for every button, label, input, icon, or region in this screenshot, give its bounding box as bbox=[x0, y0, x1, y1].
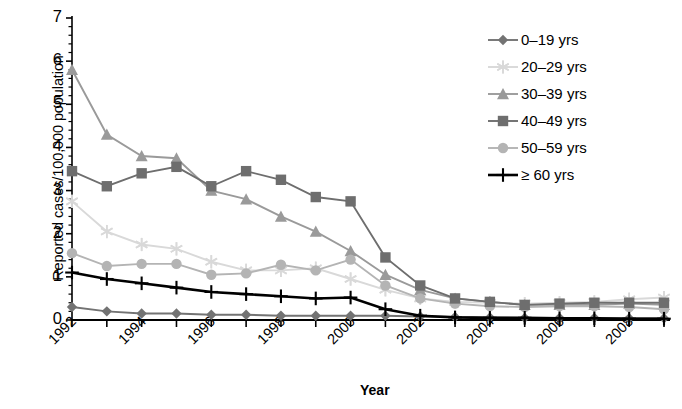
star-marker-icon bbox=[486, 57, 520, 77]
triangle-marker-icon bbox=[486, 84, 520, 104]
chart-figure: Reported cases/100,000 population Year 0… bbox=[0, 0, 682, 409]
legend-item-1: 20–29 yrs bbox=[486, 53, 587, 80]
legend-label: 50–59 yrs bbox=[520, 139, 587, 156]
legend-item-0: 0–19 yrs bbox=[486, 26, 587, 53]
circle-marker-icon bbox=[486, 138, 520, 158]
legend-label: 30–39 yrs bbox=[520, 85, 587, 102]
legend-item-4: 50–59 yrs bbox=[486, 134, 587, 161]
series-20-29-yrs bbox=[66, 195, 669, 310]
square-marker-icon bbox=[486, 111, 520, 131]
diamond-marker-icon bbox=[486, 30, 520, 50]
legend-item-2: 30–39 yrs bbox=[486, 80, 587, 107]
legend-label: ≥ 60 yrs bbox=[520, 166, 574, 183]
legend-item-3: 40–49 yrs bbox=[486, 107, 587, 134]
chart-legend: 0–19 yrs20–29 yrs30–39 yrs40–49 yrs50–59… bbox=[486, 26, 587, 188]
legend-label: 0–19 yrs bbox=[520, 31, 579, 48]
legend-item-5: ≥ 60 yrs bbox=[486, 161, 587, 188]
legend-label: 40–49 yrs bbox=[520, 112, 587, 129]
plus-marker-icon bbox=[486, 165, 520, 185]
legend-label: 20–29 yrs bbox=[520, 58, 587, 75]
